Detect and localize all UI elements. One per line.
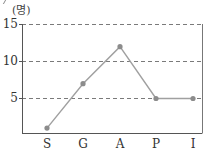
line-chart — [0, 0, 203, 152]
data-point-s — [44, 126, 49, 131]
x-tick-label-i: I — [185, 138, 201, 151]
data-point-a — [117, 44, 122, 49]
gridlines — [22, 25, 202, 99]
data-line — [47, 47, 193, 128]
data-point-i — [190, 96, 195, 101]
axes — [19, 24, 203, 134]
x-tick-label-s: S — [39, 138, 55, 151]
data-point-g — [80, 81, 85, 86]
data-point-p — [153, 96, 158, 101]
data-series — [44, 44, 195, 131]
x-tick-label-g: G — [75, 138, 91, 151]
x-tick-label-p: P — [148, 138, 164, 151]
x-tick-label-a: A — [112, 138, 128, 151]
